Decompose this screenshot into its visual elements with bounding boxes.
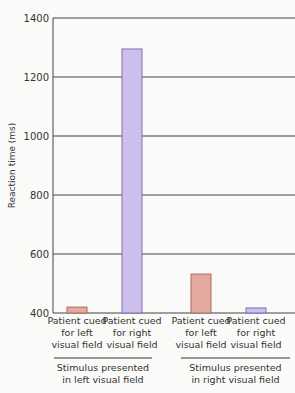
group-label: in right visual field xyxy=(191,374,279,385)
x-category-label: visual field xyxy=(106,339,157,350)
reaction-time-chart: 400600800100012001400Reaction time (ms)P… xyxy=(0,0,295,393)
group-label: in left visual field xyxy=(62,374,143,385)
group-label: Stimulus presented xyxy=(57,362,149,373)
x-category-label: Patient cued xyxy=(171,315,230,326)
y-tick-label: 600 xyxy=(30,249,49,260)
x-category-label: for right xyxy=(237,327,276,338)
group-label: Stimulus presented xyxy=(189,362,281,373)
x-category-label: visual field xyxy=(175,339,226,350)
x-category-label: Patient cued xyxy=(102,315,161,326)
y-tick-label: 1000 xyxy=(24,131,49,142)
y-tick-label: 1400 xyxy=(24,13,49,24)
x-category-label: for left xyxy=(185,327,217,338)
x-category-label: for left xyxy=(61,327,93,338)
y-axis-label: Reaction time (ms) xyxy=(7,123,17,209)
x-category-label: visual field xyxy=(230,339,281,350)
x-category-label: Patient cued xyxy=(226,315,285,326)
y-tick-label: 800 xyxy=(30,190,49,201)
bar xyxy=(191,274,211,313)
bar xyxy=(246,308,266,313)
x-category-label: Patient cued xyxy=(47,315,106,326)
bar xyxy=(67,307,87,313)
x-category-label: visual field xyxy=(51,339,102,350)
x-category-label: for right xyxy=(113,327,152,338)
y-tick-label: 1200 xyxy=(24,72,49,83)
bar xyxy=(122,49,142,313)
y-tick-label: 400 xyxy=(30,308,49,319)
